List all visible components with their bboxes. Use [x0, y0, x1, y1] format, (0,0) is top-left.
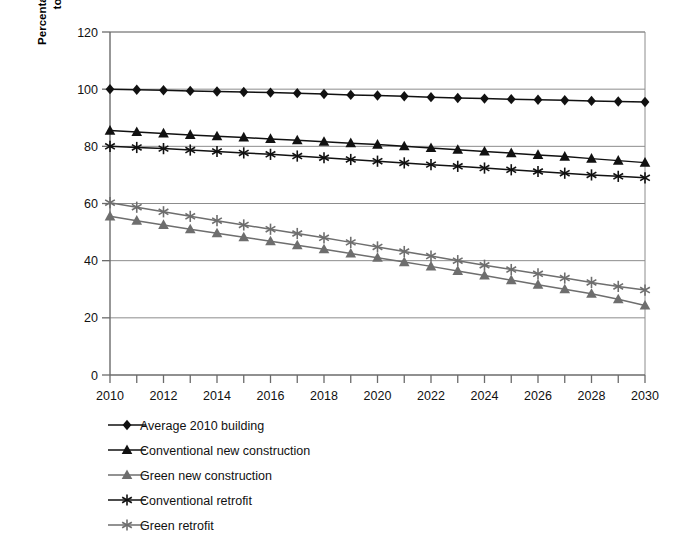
x-axis-tick-label: 2018 [310, 389, 338, 403]
legend-item-2[interactable]: Conventional new construction [108, 444, 310, 458]
diamond-marker-icon [641, 97, 650, 107]
x-axis-tick-label: 2020 [364, 389, 392, 403]
x-axis-tick-label: 2026 [524, 389, 552, 403]
diamond-marker-icon [123, 420, 132, 430]
triangle-marker-icon [105, 211, 116, 221]
diamond-marker-icon [159, 85, 168, 95]
triangle-marker-icon [105, 125, 116, 135]
triangle-marker-icon [122, 444, 133, 454]
x-axis-tick-label: 2030 [631, 389, 659, 403]
y-axis-tick-label: 0 [91, 369, 98, 383]
y-axis-tick-label: 60 [84, 197, 98, 211]
line-chart-plot: 0204060801001202010201220142016201820202… [0, 0, 680, 556]
series-5 [105, 197, 650, 296]
diamond-marker-icon [560, 95, 569, 105]
x-axis-tick-label: 2016 [257, 389, 285, 403]
diamond-marker-icon [507, 94, 516, 104]
diamond-marker-icon [587, 96, 596, 106]
y-axis-tick-label: 40 [84, 254, 98, 268]
legend-label: Average 2010 building [140, 419, 264, 433]
legend-label: Conventional new construction [140, 444, 310, 458]
diamond-marker-icon [534, 95, 543, 105]
diamond-marker-icon [132, 85, 141, 95]
series-1 [106, 84, 650, 107]
x-axis-tick-label: 2024 [471, 389, 499, 403]
diamond-marker-icon [614, 96, 623, 106]
legend-label: Conventional retrofit [140, 494, 252, 508]
y-axis-tick-label: 120 [77, 26, 98, 40]
legend-item-5[interactable]: Green retrofit [108, 519, 214, 533]
y-axis-tick-label: 80 [84, 140, 98, 154]
x-axis-tick-label: 2028 [578, 389, 606, 403]
diamond-marker-icon [106, 84, 115, 94]
legend-item-4[interactable]: Conventional retrofit [108, 494, 252, 508]
legend-label: Green retrofit [140, 519, 214, 533]
chart-figure: Percentage of energy use in comparison t… [0, 0, 680, 556]
diamond-marker-icon [480, 93, 489, 103]
diamond-marker-icon [453, 93, 462, 103]
diamond-marker-icon [400, 91, 409, 101]
legend-item-3[interactable]: Green new construction [108, 469, 272, 483]
y-axis-tick-label: 100 [77, 83, 98, 97]
x-axis-tick-label: 2022 [417, 389, 445, 403]
triangle-marker-icon [122, 469, 133, 479]
y-axis-tick-label: 20 [84, 311, 98, 325]
diamond-marker-icon [320, 89, 329, 99]
diamond-marker-icon [373, 90, 382, 100]
diamond-marker-icon [239, 87, 248, 97]
x-axis-tick-label: 2010 [96, 389, 124, 403]
diamond-marker-icon [346, 90, 355, 100]
diamond-marker-icon [213, 86, 222, 96]
legend-label: Green new construction [140, 469, 272, 483]
legend-item-1[interactable]: Average 2010 building [108, 419, 264, 433]
x-axis-tick-label: 2014 [203, 389, 231, 403]
diamond-marker-icon [186, 86, 195, 96]
x-axis-tick-label: 2012 [150, 389, 178, 403]
diamond-marker-icon [427, 92, 436, 102]
